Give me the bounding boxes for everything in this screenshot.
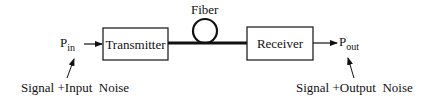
input-power-label: Pin — [60, 36, 75, 49]
output-note-pointer — [348, 58, 354, 78]
output-noise-note: Signal +Output Noise — [296, 81, 413, 94]
input-note-pointer — [67, 59, 74, 78]
fiber-loop-icon — [193, 19, 217, 43]
output-power-label: Pout — [339, 35, 359, 48]
input-noise-note: Signal +Input Noise — [21, 81, 129, 94]
fiber-label: Fiber — [191, 3, 218, 16]
receiver-label: Receiver — [247, 27, 313, 60]
output-subscript: out — [346, 41, 359, 52]
transmitter-label: Transmitter — [103, 28, 168, 60]
input-subscript: in — [67, 42, 75, 53]
